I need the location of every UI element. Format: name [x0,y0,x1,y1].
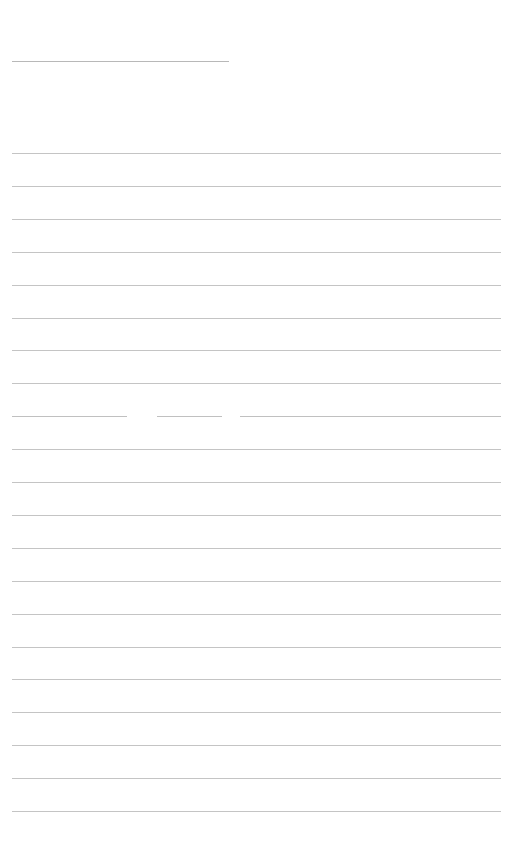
title-line [12,61,229,62]
ruled-line [12,647,501,648]
ruled-line [12,811,501,812]
ruled-line [12,679,501,680]
ruled-line [12,285,501,286]
ruled-line [12,778,501,779]
ruled-line [12,712,501,713]
ruled-line [12,614,501,615]
ruled-line [12,219,501,220]
ruled-line-segment [12,416,127,417]
ruled-line [12,449,501,450]
ruled-line [12,383,501,384]
ruled-line [12,482,501,483]
ruled-line [12,548,501,549]
ruled-line [12,350,501,351]
ruled-line [12,581,501,582]
ruled-line [12,745,501,746]
ruled-line-segment [157,416,222,417]
ruled-line [12,186,501,187]
ruled-line-segment [240,416,501,417]
ruled-line [12,153,501,154]
ruled-line [12,318,501,319]
ruled-line [12,515,501,516]
ruled-line [12,252,501,253]
